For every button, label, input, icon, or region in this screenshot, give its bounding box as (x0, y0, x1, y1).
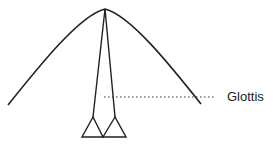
glottis-diagram (0, 0, 273, 147)
glottis-label: Glottis (227, 89, 264, 105)
vocal-tract-curve (8, 9, 201, 105)
right-arytenoid-triangle (103, 117, 126, 137)
right-vocal-fold-line (105, 9, 115, 117)
left-vocal-fold-line (93, 9, 105, 117)
left-arytenoid-triangle (82, 117, 103, 137)
